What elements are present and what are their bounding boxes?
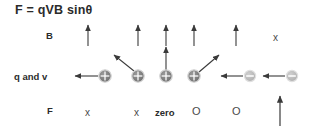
physics-diagram: F = qVB sinθ B q and v F x x x zero O O [0, 0, 315, 126]
velocity-arrow-charge-2 [114, 55, 134, 71]
positive-charge-4-icon [188, 70, 200, 82]
diagram-vectors [0, 0, 315, 126]
positive-charge-3-icon [160, 70, 172, 82]
positive-charge-2-icon [132, 70, 144, 82]
negative-charge-1-icon [244, 70, 255, 81]
velocity-arrow-charge-4 [199, 55, 219, 72]
positive-charge-1-icon [99, 70, 111, 82]
negative-charge-2-icon [286, 70, 297, 81]
